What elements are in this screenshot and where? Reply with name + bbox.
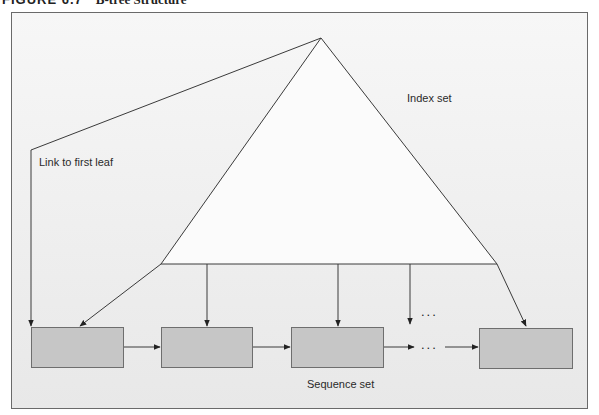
leaf-node-1	[31, 327, 124, 368]
ellipsis-chain: ...	[421, 337, 438, 352]
leaf-node-3	[291, 327, 384, 368]
leaf-node-last	[479, 328, 573, 369]
link-to-first-leaf-label: Link to first leaf	[39, 156, 113, 168]
sequence-set-label: Sequence set	[307, 378, 374, 390]
index-to-leaf-1-arrow	[80, 264, 161, 326]
index-to-last-leaf-arrow	[497, 264, 526, 326]
index-set-label: Index set	[407, 92, 452, 104]
index-set-triangle	[161, 38, 497, 264]
leaf-node-2	[161, 327, 253, 368]
ellipsis-top: ...	[421, 304, 438, 319]
